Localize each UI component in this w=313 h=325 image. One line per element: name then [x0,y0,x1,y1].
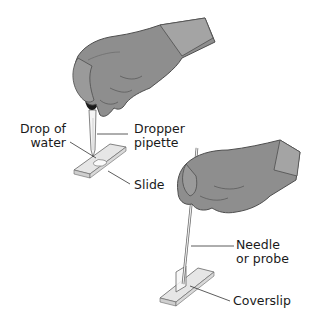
label-dropper-pipette: Dropper pipette [134,122,185,150]
top-hand-illustration [73,18,215,178]
label-needle-or-probe: Needle or probe [236,238,289,266]
wet-mount-diagram: Drop of water Dropper pipette Slide Need… [0,0,313,325]
diagram-illustration [0,0,313,325]
leader-coverslip [190,286,230,301]
label-coverslip: Coverslip [233,294,291,308]
label-slide: Slide [134,178,165,192]
label-drop-of-water: Drop of water [16,122,66,150]
leader-slide [108,171,130,184]
bottom-hand-illustration [160,140,300,306]
slide-2 [160,268,214,306]
